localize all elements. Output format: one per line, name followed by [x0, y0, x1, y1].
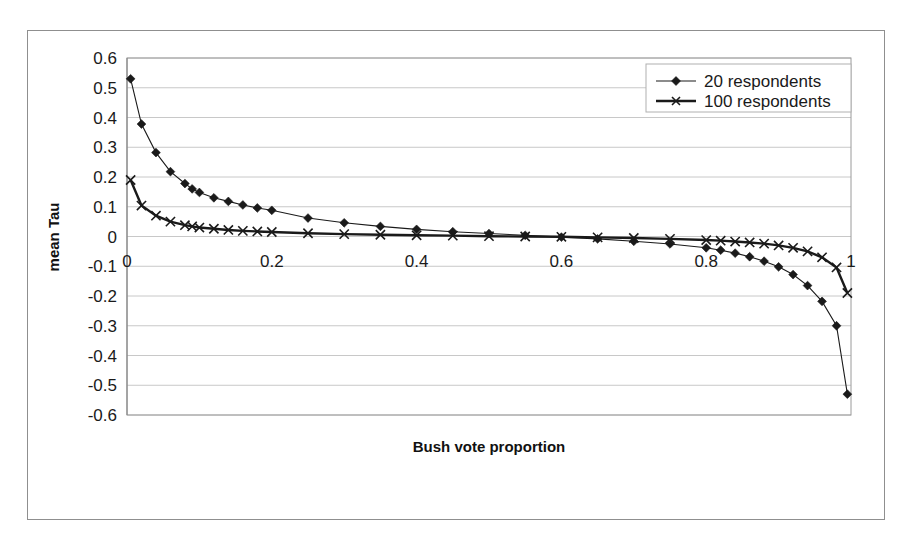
data-point-marker [774, 262, 783, 271]
data-point-marker [152, 148, 161, 157]
y-axis-tick-label: 0 [108, 228, 117, 247]
x-axis-tick-label: 0.2 [260, 252, 284, 271]
chart-frame: 0.60.50.40.30.20.10-0.1-0.2-0.3-0.4-0.5-… [27, 30, 885, 520]
data-point-marker [137, 120, 146, 129]
data-point-marker [151, 211, 160, 220]
data-point-marker [340, 218, 349, 227]
y-axis-title: mean Tau [45, 203, 62, 272]
data-point-marker [376, 222, 385, 231]
legend-label-100-respondents: 100 respondents [704, 92, 831, 111]
x-axis-tick-labels: 00.20.40.60.81 [122, 252, 855, 271]
data-point-marker [253, 204, 262, 213]
y-axis-tick-label: 0.2 [93, 168, 117, 187]
y-axis-tick-label: -0.2 [88, 287, 117, 306]
data-point-marker [832, 321, 841, 330]
data-point-marker [209, 193, 218, 202]
data-point-marker [745, 252, 754, 261]
data-point-marker [760, 257, 769, 266]
x-axis-title: Bush vote proportion [413, 438, 566, 455]
y-axis-tick-label: 0.4 [93, 109, 117, 128]
x-axis-tick-label: 0.8 [694, 252, 718, 271]
y-axis-tick-label: -0.3 [88, 317, 117, 336]
x-axis-tick-label: 0 [122, 252, 131, 271]
y-axis-tick-label: 0.3 [93, 138, 117, 157]
y-axis-tick-label: 0.6 [93, 49, 117, 68]
chart-legend[interactable]: 20 respondents 100 respondents [646, 64, 851, 112]
data-point-marker [593, 234, 602, 243]
y-axis-tick-label: 0.5 [93, 79, 117, 98]
y-axis-tick-label: -0.1 [88, 257, 117, 276]
y-axis-tick-label: -0.6 [88, 406, 117, 425]
data-point-marker [238, 201, 247, 210]
y-axis-tick-label: -0.4 [88, 347, 117, 366]
x-axis-tick-label: 0.6 [550, 252, 574, 271]
data-point-marker [789, 270, 798, 279]
data-point-marker [843, 390, 852, 399]
y-axis-tick-label: -0.5 [88, 376, 117, 395]
data-point-marker [817, 253, 826, 262]
legend-label-20-respondents: 20 respondents [704, 72, 821, 91]
x-axis-tick-label: 0.4 [405, 252, 429, 271]
data-point-marker [731, 249, 740, 258]
y-axis-tick-labels: 0.60.50.40.30.20.10-0.1-0.2-0.3-0.4-0.5-… [88, 49, 117, 425]
y-axis-tick-label: 0.1 [93, 198, 117, 217]
x-axis-tick-label: 1 [846, 252, 855, 271]
data-point-marker [224, 197, 233, 206]
chart-plot-area: 0.60.50.40.30.20.10-0.1-0.2-0.3-0.4-0.5-… [28, 31, 886, 521]
data-point-marker [304, 214, 313, 223]
data-point-marker [832, 263, 841, 272]
data-point-marker [137, 201, 146, 210]
